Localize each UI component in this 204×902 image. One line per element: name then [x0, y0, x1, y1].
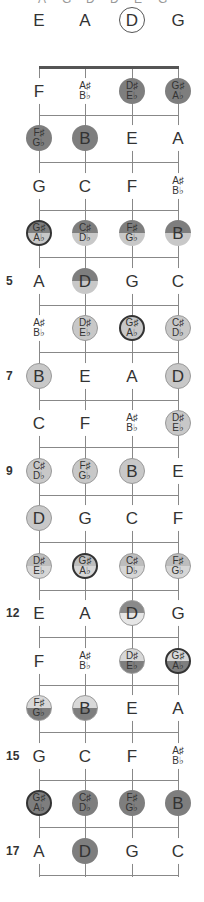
note-label: D [172, 368, 184, 385]
note-flat-label: E♭ [126, 91, 138, 101]
note-label: G [171, 605, 184, 622]
fret-line [39, 732, 179, 733]
note-marker: B [165, 220, 191, 246]
note-marker: B [72, 695, 98, 721]
note-marker: G♯A♭ [72, 553, 98, 579]
note-marker: G♯A♭ [26, 220, 52, 246]
note-marker: D♯E♭ [26, 553, 52, 579]
note-label: G [32, 748, 45, 765]
note-label: E [33, 12, 44, 29]
note-label: A [33, 273, 44, 290]
note-marker: G [119, 838, 145, 864]
note-flat-label: G♭ [172, 566, 185, 576]
fret-line [39, 257, 179, 258]
note-marker: D♯E♭ [165, 410, 191, 436]
fret-line [39, 637, 179, 638]
note-marker: A♯B♭ [165, 743, 191, 769]
note-marker: B [26, 363, 52, 389]
note-label: F [34, 83, 44, 100]
note-marker: G [26, 743, 52, 769]
fret-line [39, 352, 179, 353]
note-marker: F♯G♭ [119, 220, 145, 246]
note-label: F [127, 748, 137, 765]
note-flat-label: A♭ [172, 661, 184, 671]
note-marker: D♯E♭ [119, 78, 145, 104]
note-label: E [79, 368, 90, 385]
note-flat-label: D♭ [126, 566, 138, 576]
note-flat-label: D♭ [33, 471, 45, 481]
note-marker: G [119, 268, 145, 294]
fret-number: 15 [6, 749, 19, 763]
nut [39, 66, 179, 69]
note-marker: C [72, 173, 98, 199]
note-marker: A [119, 363, 145, 389]
note-marker: C♯D♭ [72, 790, 98, 816]
note-marker: D♯E♭ [72, 315, 98, 341]
fret-line [39, 115, 179, 116]
fret-line [39, 447, 179, 448]
note-flat-label: B♭ [172, 186, 184, 196]
note-label: E [33, 605, 44, 622]
note-marker: F [165, 505, 191, 531]
note-flat-label: A♭ [33, 803, 45, 813]
note-marker: D [119, 600, 145, 626]
note-marker: C [72, 743, 98, 769]
note-marker: F♯G♭ [165, 553, 191, 579]
note-label: A [79, 605, 90, 622]
note-marker: E [165, 458, 191, 484]
fret-line [39, 685, 179, 686]
note-label: F [127, 178, 137, 195]
note-marker: A [165, 125, 191, 151]
note-label: E [126, 130, 137, 147]
note-marker: G♯A♭ [119, 315, 145, 341]
note-marker: F [119, 743, 145, 769]
note-flat-label: A♭ [79, 566, 91, 576]
note-marker: G♯A♭ [26, 790, 52, 816]
note-marker: F [26, 648, 52, 674]
note-label: D [126, 12, 138, 29]
note-marker: C [119, 505, 145, 531]
fret-line [39, 400, 179, 401]
note-label: B [79, 700, 90, 717]
note-flat-label: D♭ [79, 803, 91, 813]
note-marker: E [119, 695, 145, 721]
note-marker: C♯D♭ [72, 220, 98, 246]
fretboard-diagram: EADGFA♯B♭D♯E♭G♯A♭F♯G♭BEAGCFA♯B♭G♯A♭C♯D♭F… [0, 0, 204, 902]
note-marker: A♯B♭ [72, 78, 98, 104]
note-marker: B [119, 458, 145, 484]
note-label: A [126, 368, 137, 385]
note-marker: F♯G♭ [26, 695, 52, 721]
note-label: B [172, 795, 183, 812]
note-label: C [126, 510, 138, 527]
note-marker: C♯D♭ [119, 553, 145, 579]
fret-number: 12 [6, 606, 19, 620]
fret-number: 5 [6, 274, 13, 288]
note-flat-label: G♭ [33, 138, 46, 148]
note-label: F [34, 653, 44, 670]
note-label: G [32, 178, 45, 195]
note-marker: G [165, 7, 191, 33]
note-label: C [79, 178, 91, 195]
note-marker: C♯D♭ [26, 458, 52, 484]
note-marker: D [119, 7, 145, 33]
note-marker: A [26, 268, 52, 294]
note-marker: C [165, 838, 191, 864]
fret-line [39, 827, 179, 828]
note-label: D [126, 605, 138, 622]
note-flat-label: G♭ [126, 803, 139, 813]
note-flat-label: B♭ [79, 661, 91, 671]
note-label: B [79, 130, 90, 147]
note-label: G [171, 12, 184, 29]
fret-number: 7 [6, 369, 13, 383]
note-marker: E [26, 7, 52, 33]
note-label: C [172, 843, 184, 860]
fret-line [39, 305, 179, 306]
note-label: A [172, 130, 183, 147]
note-label: B [126, 463, 137, 480]
note-marker: B [165, 790, 191, 816]
note-marker: A♯B♭ [72, 648, 98, 674]
fret-line [39, 495, 179, 496]
note-flat-label: G♭ [33, 708, 46, 718]
note-marker: B [72, 125, 98, 151]
note-marker: D [26, 505, 52, 531]
